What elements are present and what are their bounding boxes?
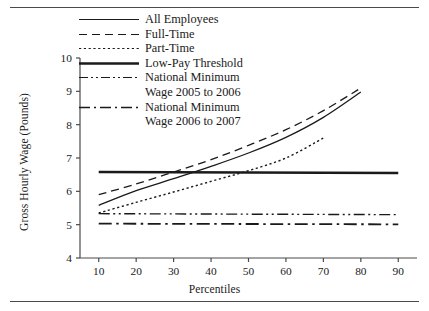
x-tick-label-90: 90 [393,265,405,277]
legend-key-spacer-2 [79,114,141,129]
legend-item-full-time: Full-Time [79,27,243,42]
legend-label-nmw-2005-2006-line2: Wage 2005 to 2006 [141,85,241,100]
y-tick-label-6: 6 [66,185,72,197]
y-tick-label-10: 10 [61,52,73,64]
figure-container: 45678910102030405060708090 Gross Hourly … [0,0,429,311]
x-tick-label-60: 60 [280,265,292,277]
x-tick-label-50: 50 [243,265,255,277]
legend-item-all-employees: All Employees [79,12,243,27]
y-tick-label-8: 8 [66,119,72,131]
x-tick-label-20: 20 [130,265,142,277]
x-axis-label: Percentiles [0,283,429,295]
legend-item-nmw-2005-2006-line2: Wage 2005 to 2006 [79,85,243,100]
series-line-national-minimum-wage-2005-to-2006 [99,214,399,215]
legend-key-spacer-1 [79,85,141,100]
legend-label-all-employees: All Employees [141,12,218,27]
legend-item-part-time: Part-Time [79,41,243,56]
legend-item-low-pay-threshold: Low-Pay Threshold [79,56,243,71]
x-tick-label-40: 40 [205,265,217,277]
series-line-low-pay-threshold [99,172,399,173]
y-tick-label-4: 4 [66,252,72,264]
legend-key-nmw-2006-2007 [79,100,141,115]
y-tick-label-5: 5 [66,219,72,231]
y-axis-label: Gross Hourly Wage (Pounds) [18,62,30,262]
legend-key-part-time [79,41,141,56]
series-line-part-time [99,138,324,213]
legend-key-nmw-2005-2006 [79,70,141,85]
legend-item-nmw-2006-2007-line2: Wage 2006 to 2007 [79,114,243,129]
y-tick-label-7: 7 [66,152,72,164]
legend-item-nmw-2005-2006: National Minimum [79,70,243,85]
x-tick-label-80: 80 [355,265,367,277]
legend-label-nmw-2005-2006: National Minimum [141,70,240,85]
legend-label-full-time: Full-Time [141,27,194,42]
series-line-national-minimum-wage-2006-to-2007 [99,224,399,225]
legend-key-full-time [79,27,141,42]
legend-label-low-pay-threshold: Low-Pay Threshold [141,56,243,71]
x-tick-label-30: 30 [168,265,180,277]
y-tick-label-9: 9 [66,85,72,97]
x-tick-label-10: 10 [93,265,105,277]
legend-label-part-time: Part-Time [141,41,194,56]
x-tick-label-70: 70 [318,265,330,277]
legend-label-nmw-2006-2007-line2: Wage 2006 to 2007 [141,114,241,129]
legend-key-low-pay-threshold [79,56,141,71]
legend-label-nmw-2006-2007: National Minimum [141,100,240,115]
chart-legend: All Employees Full-Time Part-Time Low-Pa… [79,12,243,129]
legend-key-all-employees [79,12,141,27]
legend-item-nmw-2006-2007: National Minimum [79,100,243,115]
